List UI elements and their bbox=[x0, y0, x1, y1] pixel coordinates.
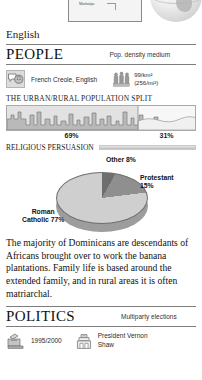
people-description-paragraph: The majority of Dominicans are descendan… bbox=[0, 234, 202, 304]
map-leader-line bbox=[115, 3, 116, 10]
chevron-right-icon bbox=[93, 50, 101, 60]
languages-label: French Creole, English bbox=[31, 76, 97, 83]
government-building-icon bbox=[76, 333, 92, 350]
religion-header-bar bbox=[99, 145, 196, 150]
pie-label-protestant: Protestant 15% bbox=[140, 174, 174, 191]
pie-top-face bbox=[56, 172, 148, 224]
population-density-tag: Pop. density medium bbox=[109, 51, 170, 58]
people-facts-row: French Creole, English 99/km² (256/mi²) bbox=[0, 65, 202, 91]
urban-rural-percentages: 69% 31% bbox=[0, 131, 202, 139]
ballot-box-icon bbox=[6, 333, 25, 349]
speech-head-icon bbox=[6, 70, 25, 88]
election-years: 1995/2000 bbox=[31, 337, 62, 346]
elections-tag: Multiparty elections bbox=[121, 313, 177, 320]
religion-pie-chart: Other 8% Protestant 15% Roman Catholic 7… bbox=[0, 154, 202, 234]
density-imperial: (256/mi²) bbox=[134, 79, 158, 87]
politics-facts-row: 1995/2000 President Vernon Shaw bbox=[0, 327, 202, 350]
urban-rural-heading: THE URBAN/RURAL POPULATION SPLIT bbox=[0, 91, 202, 105]
pie-label-protestant-value: 15% bbox=[140, 182, 174, 190]
official-language-line: English bbox=[0, 24, 202, 42]
head-of-state-line2: Shaw bbox=[98, 341, 148, 350]
religion-heading: RELIGIOUS PERSUASION bbox=[6, 143, 94, 152]
locator-map-frame: Guadeloupe DOMINICA Martinique bbox=[68, 0, 142, 22]
globe-icon bbox=[150, 0, 202, 22]
people-section-header: PEOPLE Pop. density medium bbox=[0, 45, 202, 64]
pie-label-protestant-name: Protestant bbox=[140, 174, 174, 182]
pie-label-catholic-name: Roman bbox=[22, 208, 64, 216]
urban-percentage: 69% bbox=[6, 132, 137, 139]
map-label-martinique: Martinique bbox=[79, 2, 95, 6]
religion-header: RELIGIOUS PERSUASION bbox=[0, 139, 202, 152]
population-density-icon bbox=[113, 71, 130, 87]
politics-section-title: POLITICS bbox=[6, 308, 75, 325]
locator-map-strip: Guadeloupe DOMINICA Martinique bbox=[0, 0, 202, 24]
density-metric: 99/km² bbox=[134, 71, 158, 79]
urban-rural-chart bbox=[6, 105, 196, 131]
population-density-values: 99/km² (256/mi²) bbox=[134, 71, 158, 87]
head-of-state: President Vernon Shaw bbox=[98, 332, 148, 350]
chevron-right-icon bbox=[105, 312, 113, 322]
globe-landmass bbox=[176, 0, 192, 12]
pie-3d-body bbox=[56, 172, 148, 224]
politics-section-header: POLITICS Multiparty elections bbox=[0, 307, 202, 326]
pie-label-roman-catholic: Roman Catholic 77% bbox=[22, 208, 64, 225]
rural-percentage: 31% bbox=[137, 132, 196, 139]
pie-label-catholic-value: Catholic 77% bbox=[22, 216, 64, 224]
pie-label-other: Other 8% bbox=[106, 156, 136, 164]
people-section-title: PEOPLE bbox=[6, 46, 63, 63]
head-of-state-line1: President Vernon bbox=[98, 332, 148, 341]
